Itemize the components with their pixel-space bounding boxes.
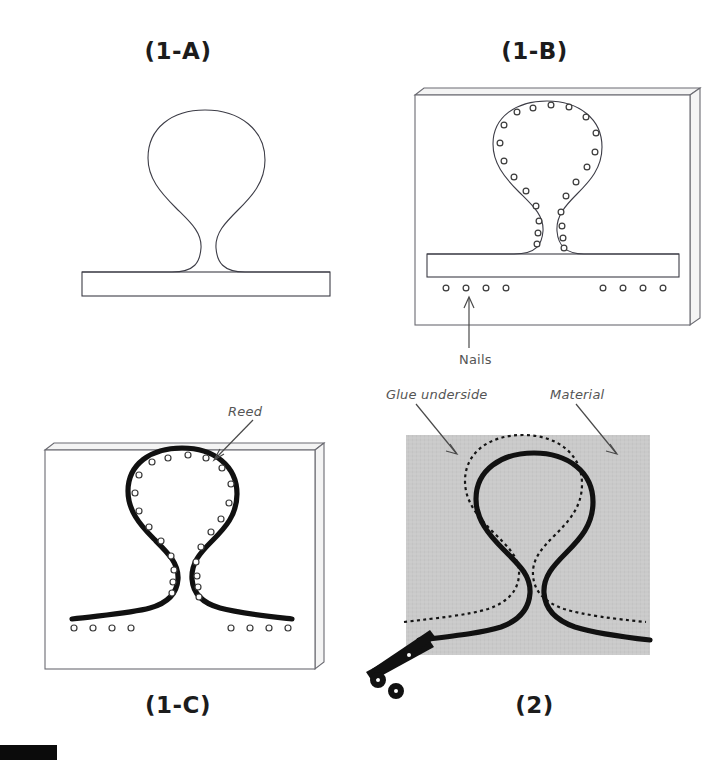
diagram-sheet: (1-A) (1-B) Nails [0,0,713,760]
page-edge-black-bar [0,745,57,760]
callout-label-nails: Nails [459,352,492,367]
scissors-pivot [407,653,411,657]
panel-2: (2) Glue underside Material [356,380,713,760]
panel-1-A: (1-A) [0,0,356,330]
board-face-1-C [45,450,315,669]
board-top-edge-1-B [415,88,700,95]
scissors-handle-ring-left [373,675,383,685]
callout-label-material: Material [550,387,604,402]
board-right-edge-1-B [690,88,700,325]
material-fabric-square [406,435,650,655]
panel-title-1-C: (1-C) [0,692,356,718]
base-bar-outline [82,272,330,296]
panel-title-1-A: (1-A) [0,38,356,64]
callout-label-glue-underside: Glue underside [386,387,488,402]
board-face-1-B [415,95,690,325]
reed-outline-shape [82,110,330,272]
panel-1-B: (1-B) Nails [356,0,713,380]
panel-1-C: (1-C) Reed [0,380,356,760]
panel-title-2: (2) [356,692,713,718]
board-right-edge-1-C [315,443,324,669]
scissors-icon [366,630,436,696]
panel-title-1-B: (1-B) [356,38,713,64]
callout-label-reed: Reed [228,404,262,419]
